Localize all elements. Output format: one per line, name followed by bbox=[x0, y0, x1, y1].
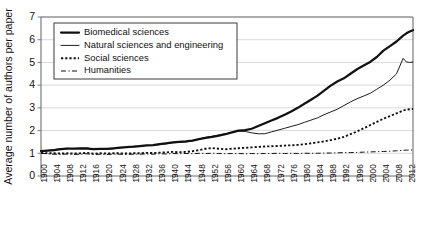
x-tick-label-1940: 1940 bbox=[171, 164, 180, 183]
x-tick-label-1904: 1904 bbox=[53, 164, 62, 183]
legend-item-natural-sciences-and-engineering[interactable]: Natural sciences and engineering bbox=[61, 39, 223, 50]
x-tick-label-1916: 1916 bbox=[92, 164, 101, 183]
y-axis-label-text: Average number of authors per paper bbox=[2, 8, 14, 185]
legend-label-social-sciences: Social sciences bbox=[84, 52, 149, 63]
x-tick-label-1980: 1980 bbox=[303, 164, 312, 183]
x-tick-label-2012: 2012 bbox=[408, 164, 417, 183]
y-axis-tick-labels: 01234567 bbox=[29, 10, 41, 181]
x-tick-label-1992: 1992 bbox=[342, 164, 351, 183]
x-tick-label-1952: 1952 bbox=[211, 164, 220, 183]
x-tick-label-1908: 1908 bbox=[66, 164, 75, 183]
x-tick-label-1984: 1984 bbox=[316, 164, 325, 183]
y-tick-label-4: 4 bbox=[29, 78, 35, 90]
x-tick-label-1948: 1948 bbox=[198, 164, 207, 183]
series-line-humanities bbox=[41, 150, 413, 155]
x-tick-label-1912: 1912 bbox=[79, 164, 88, 183]
x-tick-label-1964: 1964 bbox=[250, 164, 259, 183]
chart-legend: Biomedical sciencesNatural sciences and … bbox=[54, 23, 237, 79]
x-tick-label-2008: 2008 bbox=[395, 164, 404, 183]
x-tick-label-1944: 1944 bbox=[184, 164, 193, 183]
x-tick-label-2000: 2000 bbox=[369, 164, 378, 183]
x-tick-label-1920: 1920 bbox=[105, 164, 114, 183]
y-axis-title: Average number of authors per paper bbox=[2, 8, 14, 185]
x-tick-label-1968: 1968 bbox=[263, 164, 272, 183]
x-tick-label-1976: 1976 bbox=[290, 164, 299, 183]
x-tick-label-1936: 1936 bbox=[158, 164, 167, 183]
x-tick-label-1988: 1988 bbox=[329, 164, 338, 183]
y-tick-label-0: 0 bbox=[29, 169, 35, 181]
y-tick-label-7: 7 bbox=[29, 10, 35, 22]
authors-per-paper-line-chart: 01234567 1900190419081912191619201924192… bbox=[0, 0, 426, 226]
x-tick-label-1928: 1928 bbox=[132, 164, 141, 183]
x-tick-label-1956: 1956 bbox=[224, 164, 233, 183]
x-axis-tick-labels: 1900190419081912191619201924192819321936… bbox=[40, 164, 418, 183]
x-tick-label-1996: 1996 bbox=[356, 164, 365, 183]
y-tick-label-2: 2 bbox=[29, 124, 35, 136]
y-tick-label-5: 5 bbox=[29, 56, 35, 68]
legend-label-biomedical-sciences: Biomedical sciences bbox=[84, 26, 169, 37]
x-tick-label-1960: 1960 bbox=[237, 164, 246, 183]
x-tick-label-1972: 1972 bbox=[277, 164, 286, 183]
x-tick-label-1900: 1900 bbox=[40, 164, 49, 183]
x-tick-label-1932: 1932 bbox=[145, 164, 154, 183]
chart-container: 01234567 1900190419081912191619201924192… bbox=[0, 0, 426, 226]
y-tick-label-3: 3 bbox=[29, 101, 35, 113]
x-tick-label-2004: 2004 bbox=[382, 164, 391, 183]
y-tick-label-6: 6 bbox=[29, 33, 35, 45]
legend-label-humanities: Humanities bbox=[84, 64, 131, 75]
legend-label-natural-sciences-and-engineering: Natural sciences and engineering bbox=[84, 39, 223, 50]
x-tick-label-1924: 1924 bbox=[119, 164, 128, 183]
y-tick-label-1: 1 bbox=[29, 147, 35, 159]
series-line-social-sciences bbox=[41, 109, 413, 154]
